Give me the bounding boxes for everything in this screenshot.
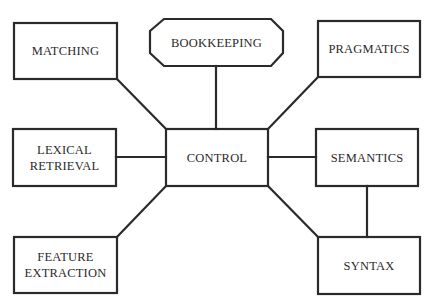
edge-control-pragmatics [268,77,318,129]
node-semantics-label: SEMANTICS [331,150,404,166]
node-lexical-label-line1: LEXICAL [37,142,92,158]
node-matching-label: MATCHING [32,43,100,59]
edge-control-feature [117,186,166,237]
node-bookkeeping-label: BOOKKEEPING [171,35,262,51]
node-syntax: SYNTAX [318,237,420,294]
node-feature-label-line2: EXTRACTION [25,265,107,281]
node-semantics: SEMANTICS [316,129,418,186]
node-matching: MATCHING [14,23,117,79]
node-pragmatics-label: PRAGMATICS [328,41,409,57]
node-feature-extraction: FEATURE EXTRACTION [14,237,117,293]
edge-control-syntax [268,186,318,237]
edge-control-matching [117,79,166,129]
node-syntax-label: SYNTAX [344,258,395,274]
node-lexical-label-line2: RETRIEVAL [30,158,100,174]
node-bookkeeping: BOOKKEEPING [150,19,283,66]
node-control-label: CONTROL [187,150,247,166]
node-lexical-retrieval: LEXICAL RETRIEVAL [13,129,116,186]
node-feature-label-line1: FEATURE [37,249,93,265]
node-control: CONTROL [166,129,268,186]
node-pragmatics: PRAGMATICS [318,21,420,77]
